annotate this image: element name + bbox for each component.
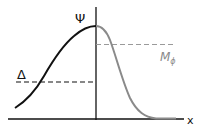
x-axis-label: x <box>187 114 194 127</box>
psi-curve-right <box>96 26 176 119</box>
m-phi-label: Mϕ <box>160 50 176 66</box>
m-phi-label-main: M <box>160 50 171 64</box>
delta-label: Δ <box>17 67 26 82</box>
order-parameter-diagram: Ψ Δ Mϕ x <box>0 0 202 133</box>
psi-curve-left <box>15 26 96 108</box>
psi-label: Ψ <box>75 11 85 26</box>
m-phi-label-subscript: ϕ <box>170 57 176 66</box>
